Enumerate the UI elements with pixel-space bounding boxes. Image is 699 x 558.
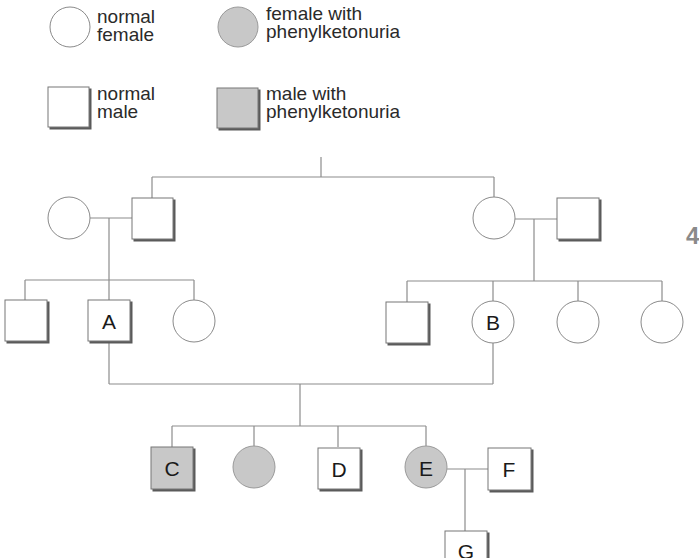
page-marker: 4 — [686, 222, 699, 250]
gen1-male-left — [132, 198, 173, 239]
gen2-female-7 — [641, 301, 683, 343]
legend-normal-male-icon — [48, 87, 89, 127]
legend-affected-female-line2: phenylketonuria — [266, 23, 400, 41]
legend-normal-male-label: normal male — [97, 85, 155, 121]
label-D: D — [331, 458, 346, 481]
gen2-male-4 — [386, 302, 428, 343]
gen3-female-affected — [233, 446, 275, 488]
gen1-female-right — [473, 197, 515, 239]
legend-affected-male-icon — [217, 88, 258, 128]
label-G: G — [458, 540, 474, 558]
label-A: A — [102, 310, 116, 333]
legend-affected-male-label: male with phenylketonuria — [266, 85, 400, 121]
gen1-male-right — [557, 198, 599, 239]
gen2-male-1 — [5, 300, 47, 341]
gen1-female-left — [48, 197, 90, 239]
legend-affected-male-line2: phenylketonuria — [266, 103, 400, 121]
legend-normal-female-icon — [50, 7, 90, 47]
legend-normal-female-line2: female — [97, 26, 155, 44]
gen2-female-3 — [173, 300, 215, 342]
label-E: E — [419, 457, 433, 480]
legend-affected-female-label: female with phenylketonuria — [266, 5, 400, 41]
label-F: F — [503, 458, 516, 481]
gen2-female-6 — [557, 301, 599, 343]
label-C: C — [164, 457, 179, 480]
label-B: B — [486, 311, 500, 334]
legend-normal-female-label: normal female — [97, 8, 155, 44]
legend-normal-male-line2: male — [97, 103, 155, 121]
legend-affected-female-icon — [218, 7, 258, 47]
